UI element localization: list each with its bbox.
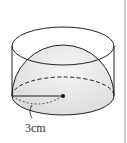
hemisphere [12, 45, 114, 115]
cylinder-hemisphere-diagram: 3cm [0, 0, 127, 143]
radius-label: 3cm [25, 121, 46, 136]
diagram-svg [0, 0, 127, 143]
right-divider [124, 0, 126, 143]
center-point [61, 94, 65, 98]
